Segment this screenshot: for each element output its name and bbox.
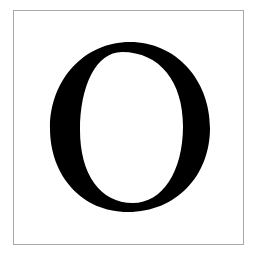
letter-o-glyph	[0, 0, 257, 256]
